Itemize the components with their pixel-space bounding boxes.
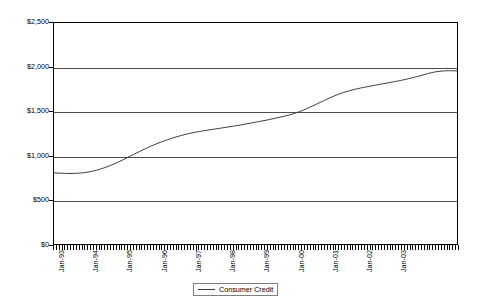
y-axis-tick-label: $1,500: [3, 107, 49, 115]
x-axis-tick-label: Jan-97: [195, 250, 203, 272]
x-axis-tick-label: Jan-96: [161, 250, 169, 272]
y-axis-tick-label: $2,500: [3, 18, 49, 26]
legend-label: Consumer Credit: [219, 286, 273, 294]
series-consumer-credit: [54, 23, 457, 244]
x-axis-tick-label: Jan-95: [126, 250, 134, 272]
x-axis-tick-label: Jan-00: [298, 250, 306, 272]
y-axis-tick-label: $2,000: [3, 63, 49, 71]
x-axis-tick-mark: [458, 245, 459, 250]
consumer-credit-line-chart: $0$500$1,000$1,500$2,000$2,500 Jan-93Jan…: [0, 0, 479, 306]
x-axis-tick-label: Jan-02: [366, 250, 374, 272]
x-axis-tick-label: Jan-98: [229, 250, 237, 272]
legend: Consumer Credit: [193, 283, 278, 296]
plot-area: [53, 22, 458, 245]
x-axis-tick-label: Jan-94: [92, 250, 100, 272]
x-axis-tick-label: Jan-03: [400, 250, 408, 272]
x-axis-tick-label: Jan-93: [58, 250, 66, 272]
y-axis-labels: $0$500$1,000$1,500$2,000$2,500: [0, 22, 49, 245]
x-axis-tick-label: Jan-01: [332, 250, 340, 272]
x-axis-tick-label: Jan-99: [263, 250, 271, 272]
y-axis-tick-label: $500: [3, 196, 49, 204]
y-axis-tick-label: $0: [3, 241, 49, 249]
y-axis-tick-label: $1,000: [3, 152, 49, 160]
legend-line-swatch: [198, 289, 215, 290]
